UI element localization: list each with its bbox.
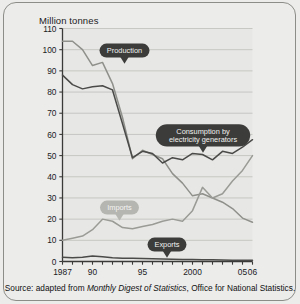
x-tick-label: 95 — [138, 267, 148, 277]
source-caption: Source: adapted from Monthly Digest of S… — [0, 283, 300, 293]
caption-publication: Monthly Digest of Statistics — [87, 283, 187, 293]
x-tick-label: 90 — [88, 267, 98, 277]
x-tick-label: 1987 — [53, 267, 72, 277]
y-tick-label: 80 — [47, 87, 57, 97]
chart-plot-area: 0102030405060708090100110 19879095200005… — [0, 0, 300, 304]
callout-label: Imports — [107, 203, 132, 212]
y-tick-label: 50 — [47, 151, 57, 161]
y-tick-label: 40 — [47, 172, 57, 182]
x-tick-labels: 1987909520000506 — [53, 267, 257, 277]
y-tick-label: 0 — [52, 257, 57, 267]
figure-container: Million tonnes 0102030405060708090100110… — [0, 0, 300, 304]
y-tick-label: 10 — [47, 235, 57, 245]
x-tick-label: 06 — [248, 267, 258, 277]
y-tick-label: 30 — [47, 193, 57, 203]
y-tick-label: 20 — [47, 214, 57, 224]
callout-label: Production — [107, 46, 142, 55]
y-tick-label: 110 — [43, 24, 57, 34]
caption-suffix: , Office for National Statistics. — [187, 283, 296, 293]
y-tick-label: 90 — [47, 66, 57, 76]
y-tick-labels: 0102030405060708090100110 — [43, 24, 57, 267]
callout-label: Exports — [154, 240, 179, 249]
y-tick-label: 100 — [43, 45, 57, 55]
line-chart: 0102030405060708090100110 19879095200005… — [0, 0, 300, 304]
y-tick-label: 70 — [47, 108, 57, 118]
x-tick-label: 2000 — [183, 267, 202, 277]
callout-label: electricity generators — [169, 135, 237, 144]
y-tick-label: 60 — [47, 130, 57, 140]
caption-prefix: Source: adapted from — [5, 283, 87, 293]
x-tick-label: 05 — [238, 267, 248, 277]
